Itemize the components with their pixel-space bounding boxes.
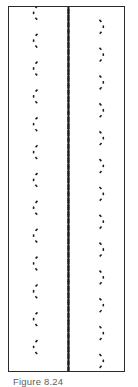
braid-strand bbox=[99, 48, 103, 62]
figure-caption: Figure 8.24 bbox=[13, 376, 133, 387]
braid-strand bbox=[34, 173, 38, 187]
braid-strand-group bbox=[34, 7, 104, 371]
braid-strand bbox=[99, 76, 103, 90]
braid-strand bbox=[99, 298, 103, 312]
braid-strand bbox=[99, 271, 103, 285]
braid-strand bbox=[99, 20, 103, 34]
braid-strand bbox=[34, 62, 38, 76]
figure-frame-border bbox=[8, 6, 125, 372]
braid-strand bbox=[34, 90, 38, 104]
braid-strand bbox=[34, 34, 38, 48]
braid-strand bbox=[34, 117, 38, 131]
braid-strand bbox=[99, 215, 103, 229]
braid-strand bbox=[34, 7, 38, 20]
braid-strand bbox=[34, 312, 38, 326]
braid-strand bbox=[99, 131, 103, 145]
braid-strand bbox=[99, 326, 103, 340]
braid-strand bbox=[34, 201, 38, 215]
braid-strand bbox=[34, 229, 38, 243]
braid-strand bbox=[99, 354, 103, 368]
braid-strand bbox=[34, 284, 38, 298]
braid-strand bbox=[34, 340, 38, 354]
braid-strand bbox=[99, 187, 103, 201]
braid-strand bbox=[99, 243, 103, 257]
braid-strand bbox=[99, 159, 103, 173]
braid-strand bbox=[34, 257, 38, 271]
braid-diagram bbox=[9, 7, 124, 371]
figure-container: Figure 8.24 bbox=[0, 0, 138, 387]
braid-strand bbox=[34, 145, 38, 159]
braid-strand bbox=[99, 103, 103, 117]
